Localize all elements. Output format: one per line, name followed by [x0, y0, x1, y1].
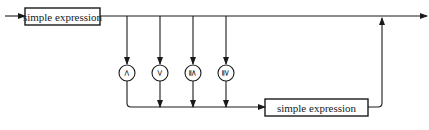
op-gt-label: >: [155, 69, 165, 77]
op-lt-label: <: [122, 69, 132, 77]
branch-lt-rise: [127, 81, 265, 107]
op-le-label: ≦: [188, 69, 198, 77]
syntax-diagram: simple expression simple expression < > …: [0, 0, 429, 130]
simple-expression-label-2: simple expression: [277, 102, 357, 114]
return-path: [368, 18, 382, 107]
op-ge-label: ≧: [221, 69, 231, 77]
simple-expression-label-1: simple expression: [23, 11, 103, 23]
